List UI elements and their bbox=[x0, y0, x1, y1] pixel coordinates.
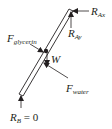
f-water-sub: water bbox=[73, 88, 89, 96]
r-ay-main: R bbox=[68, 27, 75, 39]
f-water-label: Fwater bbox=[66, 83, 89, 96]
center-of-gravity-icon bbox=[44, 49, 48, 53]
r-ay-label: RAy bbox=[68, 28, 82, 41]
r-b-value: = 0 bbox=[21, 111, 38, 123]
f-water-main: F bbox=[66, 82, 73, 94]
f-water-arrow bbox=[44, 63, 68, 78]
f-glycerin-label: Fglycerin bbox=[7, 33, 37, 46]
r-ax-sub: Ax bbox=[98, 11, 105, 19]
r-b-label: RB = 0 bbox=[10, 112, 38, 125]
weight-label: W bbox=[51, 54, 60, 65]
r-ax-label: RAx bbox=[91, 6, 105, 19]
weight-main: W bbox=[51, 53, 60, 65]
r-ax-main: R bbox=[91, 5, 98, 17]
f-glycerin-main: F bbox=[7, 32, 14, 44]
r-b-main: R bbox=[10, 111, 17, 123]
r-ay-sub: Ay bbox=[75, 33, 82, 41]
f-glycerin-sub: glycerin bbox=[14, 38, 37, 46]
